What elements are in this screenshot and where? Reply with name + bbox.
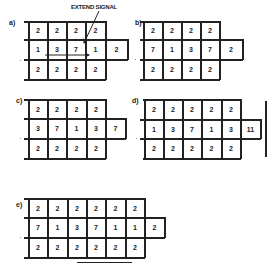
panel-label-e: e) bbox=[16, 201, 22, 208]
cell: 1 bbox=[145, 120, 163, 138]
cell: 2 bbox=[106, 40, 127, 59]
cell: 7 bbox=[87, 218, 105, 237]
panel-label-c: c) bbox=[16, 97, 22, 104]
cell: 3 bbox=[48, 40, 66, 59]
cell: 2 bbox=[202, 139, 221, 158]
cell: 1 bbox=[163, 40, 181, 59]
cell: 2 bbox=[201, 22, 219, 39]
cell: 2 bbox=[67, 100, 86, 118]
cell: 2 bbox=[182, 60, 200, 79]
cell: 2 bbox=[29, 238, 47, 257]
cell: 2 bbox=[145, 218, 164, 237]
cell: 11 bbox=[241, 120, 260, 138]
cell: 2 bbox=[144, 60, 162, 79]
cell: 7 bbox=[144, 40, 162, 59]
cell: 2 bbox=[106, 199, 125, 217]
cell: 3 bbox=[222, 120, 240, 138]
cell: 2 bbox=[67, 60, 85, 79]
cell: 2 bbox=[201, 60, 219, 79]
cell: 1 bbox=[202, 120, 221, 138]
cell: 2 bbox=[220, 40, 242, 59]
cell: 2 bbox=[29, 139, 47, 158]
cell: 2 bbox=[29, 100, 47, 118]
cell: 2 bbox=[222, 100, 240, 119]
cell: 2 bbox=[48, 60, 66, 79]
panel-label-d: d) bbox=[132, 97, 139, 104]
cell: 1 bbox=[29, 40, 47, 59]
panel-a: a) EXTEND SIGNAL 2 2 2 2 1 3 7 1 2 2 2 bbox=[0, 0, 135, 85]
cell: 7 bbox=[201, 40, 219, 59]
panel-b: b) 2 2 2 2 7 1 3 7 2 2 2 2 2 bbox=[130, 0, 275, 85]
cell: 2 bbox=[126, 199, 144, 217]
underline-bar bbox=[77, 262, 132, 263]
cell: 2 bbox=[163, 60, 181, 79]
cell: 3 bbox=[182, 40, 200, 59]
cell: 2 bbox=[48, 139, 66, 158]
cell: 2 bbox=[29, 199, 47, 217]
cell: 7 bbox=[106, 119, 125, 138]
cell: 2 bbox=[222, 139, 240, 158]
cell: 2 bbox=[144, 22, 162, 39]
cell: 2 bbox=[163, 22, 181, 39]
cell: 2 bbox=[87, 238, 105, 257]
cell: 1 bbox=[86, 40, 105, 59]
cell: 2 bbox=[67, 22, 85, 39]
cell: 2 bbox=[29, 60, 47, 79]
cell: 2 bbox=[87, 199, 105, 217]
cell: 1 bbox=[67, 119, 86, 138]
cell: 2 bbox=[87, 100, 105, 118]
cell: 2 bbox=[48, 199, 67, 217]
cell: 2 bbox=[202, 100, 221, 119]
cell: 2 bbox=[183, 139, 201, 158]
bracket-bar bbox=[265, 101, 267, 157]
cell: 1 bbox=[48, 218, 67, 237]
cell: 7 bbox=[67, 40, 85, 59]
cell: 2 bbox=[48, 238, 67, 257]
cell: 3 bbox=[68, 218, 86, 237]
cell: 2 bbox=[106, 238, 125, 257]
cell: 2 bbox=[164, 139, 182, 158]
cell: 3 bbox=[164, 120, 182, 138]
cell: 2 bbox=[126, 238, 144, 257]
panel-d: d) 2 2 2 2 2 1 3 7 1 3 11 2 bbox=[130, 90, 275, 170]
cell: 2 bbox=[182, 22, 200, 39]
panel-label-a: a) bbox=[9, 19, 15, 26]
cell: 2 bbox=[29, 22, 47, 39]
cell: 2 bbox=[86, 22, 105, 39]
cell: 2 bbox=[86, 60, 105, 79]
cell: 7 bbox=[183, 120, 201, 138]
cell: 3 bbox=[29, 119, 47, 138]
panel-e: e) 2 2 2 2 2 2 7 1 3 7 1 bbox=[0, 190, 180, 275]
cell: 7 bbox=[29, 218, 47, 237]
cell: 2 bbox=[67, 139, 86, 158]
cell: 2 bbox=[68, 238, 86, 257]
cell: 7 bbox=[48, 119, 66, 138]
cell: 2 bbox=[48, 100, 66, 118]
cell: 2 bbox=[183, 100, 201, 119]
cell: 3 bbox=[87, 119, 105, 138]
cell: 1 bbox=[126, 218, 144, 237]
cell: 2 bbox=[164, 100, 182, 119]
cell: 1 bbox=[106, 218, 125, 237]
panel-c: c) 2 2 2 2 3 7 1 3 7 2 2 2 2 bbox=[0, 90, 135, 170]
cell: 2 bbox=[87, 139, 105, 158]
extend-signal-label: EXTEND SIGNAL bbox=[71, 4, 117, 10]
cell: 2 bbox=[145, 100, 163, 119]
cell: 2 bbox=[145, 139, 163, 158]
cell: 2 bbox=[68, 199, 86, 217]
cell: 2 bbox=[48, 22, 66, 39]
